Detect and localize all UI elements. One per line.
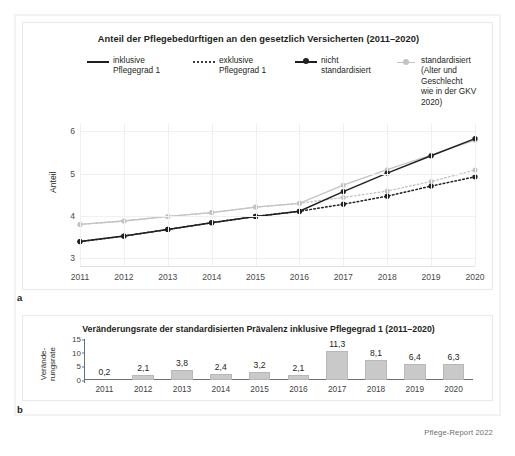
panel-b-bar-chart: Veränderungsrate der standardisierten Pr… — [22, 315, 493, 401]
panel-b-bar-value-label: 2,4 — [215, 362, 227, 372]
panel-a-x-tick-label: 2012 — [114, 272, 133, 282]
panel-a-series-line — [80, 140, 475, 224]
panel-b-bar-value-label: 3,8 — [176, 358, 188, 368]
panel-a-gridline-v — [431, 123, 432, 266]
legend-label-inklusive: inklusive Pflegegrad 1 — [113, 55, 160, 76]
panel-b-y-axis-label: Verände- rungsrate — [39, 336, 58, 392]
panel-b-letter: b — [17, 404, 23, 415]
panel-b-bar — [249, 372, 271, 380]
panel-b-x-tick-label: 2018 — [367, 384, 385, 394]
panel-a-gridline-v — [80, 123, 81, 266]
legend-item-standardisiert: standardisiert (Alter und Geschlecht wie… — [395, 55, 493, 107]
panel-b-bar-value-label: 6,3 — [448, 352, 460, 362]
panel-a-gridline-h — [80, 258, 475, 259]
figure-root: Anteil der Pflegebedürftigen an den gese… — [0, 0, 515, 456]
legend-label-standardisiert: standardisiert (Alter und Geschlecht wie… — [421, 55, 493, 107]
legend-marker-gray-dot-line-icon — [395, 57, 417, 67]
panel-b-bar — [443, 364, 465, 380]
panel-a-y-tick-label: 6 — [70, 126, 75, 136]
panel-a-gridline-v — [343, 123, 344, 266]
legend-item-inklusive: inklusive Pflegegrad 1 — [87, 55, 160, 76]
panel-a-x-tick-label: 2018 — [378, 272, 397, 282]
panel-b-x-tick-label: 2020 — [444, 384, 462, 394]
panel-a-gridline-v — [124, 123, 125, 266]
panel-a-y-axis-label: Anteil — [48, 172, 58, 194]
panel-a-gridline-h — [80, 131, 475, 132]
legend-label-nicht-standardisiert: nicht standardisiert — [321, 55, 371, 76]
panel-a-x-tick-label: 2020 — [465, 272, 484, 282]
panel-a-gridline-h — [80, 216, 475, 217]
panel-b-bar-value-label: 8,1 — [370, 348, 382, 358]
panel-b-x-tick-label: 2017 — [328, 384, 346, 394]
panel-a-gridline-v — [168, 123, 169, 266]
panel-a-x-tick-label: 2011 — [71, 272, 89, 282]
panel-b-x-tick-label: 2019 — [406, 384, 424, 394]
panel-a-x-tick-label: 2016 — [290, 272, 309, 282]
panel-a-x-tick-label: 2014 — [202, 272, 221, 282]
panel-a-x-axis — [80, 266, 475, 267]
panel-b-bar-value-label: 3,2 — [254, 360, 266, 370]
panel-b-title: Veränderungsrate der standardisierten Pr… — [23, 324, 494, 334]
panel-a-letter: a — [17, 292, 22, 303]
legend-item-nicht-standardisiert: nicht standardisiert — [295, 55, 371, 76]
panel-b-bar-value-label: 6,4 — [409, 352, 421, 362]
panel-b-x-tick-label: 2015 — [250, 384, 268, 394]
panel-a-x-tick-label: 2015 — [246, 272, 265, 282]
panel-b-bar — [171, 370, 193, 380]
panel-b-bar — [326, 351, 348, 380]
panel-b-x-tick-label: 2016 — [289, 384, 307, 394]
source-caption: Pflege-Report 2022 — [424, 428, 493, 437]
panel-b-bar-value-label: 0,2 — [98, 367, 110, 377]
panel-b-x-tick-label: 2013 — [173, 384, 191, 394]
panel-b-plot-area: 0510150,220112,120123,820132,420143,2201… — [85, 342, 473, 380]
legend-label-exklusive: exklusive Pflegegrad 1 — [219, 55, 266, 76]
panel-a-gridline-v — [256, 123, 257, 266]
panel-b-bar — [404, 364, 426, 380]
panel-b-x-tick-label: 2014 — [212, 384, 230, 394]
panel-a-x-tick-label: 2017 — [334, 272, 353, 282]
panel-a-gridline-v — [475, 123, 476, 266]
panel-a-gridline-v — [387, 123, 388, 266]
panel-a-title: Anteil der Pflegebedürftigen an den gese… — [23, 34, 494, 44]
panel-b-bar — [365, 360, 387, 381]
panel-a-series-line — [80, 177, 475, 242]
panel-b-bar — [288, 375, 310, 380]
panel-b-y-tick-label: 0 — [77, 376, 81, 385]
panel-b-bar — [210, 374, 232, 380]
panel-a-y-tick-label: 5 — [70, 169, 75, 179]
panel-b-y-tick-label: 10 — [72, 348, 81, 357]
panel-b-bar — [132, 375, 154, 380]
panel-b-x-tick-label: 2011 — [95, 384, 113, 394]
panel-a-x-tick-label: 2019 — [422, 272, 441, 282]
panel-a-plot-area: 3456201120122013201420152016201720182019… — [80, 123, 475, 266]
panel-b-bar-value-label: 2,1 — [137, 363, 149, 373]
panel-a-gridline-h — [80, 174, 475, 175]
panel-b-bar-value-label: 11,3 — [329, 339, 345, 349]
panel-b-x-tick-label: 2012 — [134, 384, 152, 394]
panel-a-gridline-v — [299, 123, 300, 266]
panel-b-bar-value-label: 2,1 — [292, 363, 304, 373]
panel-a-y-tick-label: 3 — [70, 253, 75, 263]
panel-b-y-tick-label: 5 — [77, 362, 81, 371]
legend-marker-black-dot-line-icon — [295, 57, 317, 67]
panel-a-gridline-v — [212, 123, 213, 266]
panel-a-series-svg — [80, 123, 475, 266]
panel-a-x-tick-label: 2013 — [158, 272, 177, 282]
legend-marker-dotted-line-icon — [193, 57, 215, 67]
panel-a-line-chart: Anteil der Pflegebedürftigen an den gese… — [22, 22, 493, 290]
panel-b-y-axis — [84, 339, 85, 383]
legend-item-exklusive: exklusive Pflegegrad 1 — [193, 55, 266, 76]
legend-marker-solid-line-icon — [87, 57, 109, 67]
panel-b-y-tick-label: 15 — [72, 335, 81, 344]
panel-a-legend: inklusive Pflegegrad 1 exklusive Pflegeg… — [45, 55, 493, 101]
panel-a-y-tick-label: 4 — [70, 211, 75, 221]
